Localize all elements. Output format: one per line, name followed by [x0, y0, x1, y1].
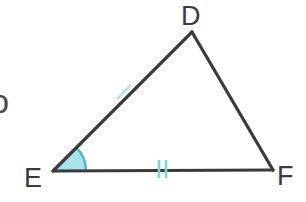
side-df: [192, 32, 273, 170]
side-ed: [53, 32, 192, 171]
triangle-def-svg: [0, 0, 306, 202]
vertex-label-d: D: [181, 3, 201, 30]
vertex-label-f: F: [277, 163, 294, 190]
vertex-label-e: E: [24, 165, 42, 192]
side-ef: [53, 170, 273, 171]
cropped-glyph: ɔ: [0, 84, 9, 118]
geometry-figure-canvas: D E F ɔ: [0, 0, 306, 202]
